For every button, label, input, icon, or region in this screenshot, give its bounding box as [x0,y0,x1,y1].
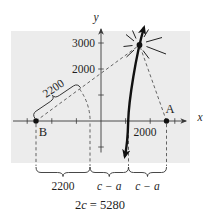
y-tick-label-2000: 2000 [72,63,95,75]
explosion-point-dot [137,42,143,48]
brace-label-c-minus-a-left: c − a [97,180,122,192]
underbrace-c-minus-a-right [129,167,167,177]
focus-a-dot [164,118,169,123]
bottom-braces [36,167,167,177]
x-axis-label: x [196,111,203,123]
hyperbola-explosion-figure: y x 3000 2000 2000 A B 2200 2200 c − a c… [0,0,207,213]
x-tick-label-2000: 2000 [134,126,157,138]
underbrace-c-minus-a-left [90,167,129,177]
brace-label-c-minus-a-right: c − a [135,180,160,192]
focus-b-dot [33,118,38,123]
point-a-label: A [165,102,174,116]
brace-label-2200: 2200 [52,180,75,192]
diagram-canvas: y x 3000 2000 2000 A B 2200 2200 c − a c… [0,0,207,213]
point-b-label: B [39,125,47,139]
y-axis-label: y [92,11,99,24]
equation-variable: c [81,198,87,212]
equation-2c-5280: 2c= 5280 [75,198,125,212]
graph-background-panel [11,31,190,163]
underbrace-2200 [36,167,90,177]
y-tick-label-3000: 3000 [72,37,95,49]
equation-value: = 5280 [90,198,125,212]
